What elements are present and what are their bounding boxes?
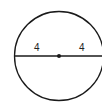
left-radius-label: 4 <box>34 42 40 53</box>
right-radius-label: 4 <box>79 42 85 53</box>
center-point <box>57 54 61 58</box>
circle-diagram: 4 4 <box>0 0 102 103</box>
